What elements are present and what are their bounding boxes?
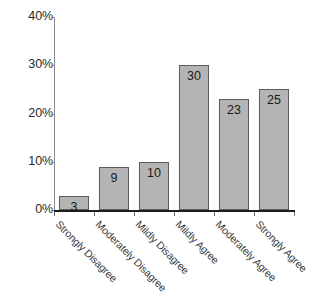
bar-5[interactable]: 25: [259, 89, 289, 210]
x-tick-mark-5: [254, 212, 255, 216]
y-tick-label-3: 30%: [28, 57, 53, 71]
bar-value-3: 30: [180, 69, 208, 83]
x-tick-mark-2: [134, 212, 135, 216]
x-tick-mark-4: [214, 212, 215, 216]
y-tick-label-1: 10%: [28, 154, 53, 168]
bar-chart: 0% 10% 20% 30% 40% 3 9 10 30 23 25: [0, 0, 318, 302]
bar-4[interactable]: 23: [219, 99, 249, 210]
bar-value-4: 23: [220, 103, 248, 117]
y-tick-label-4: 40%: [28, 9, 53, 23]
y-tick-label-0: 0%: [35, 202, 53, 216]
bar-2[interactable]: 10: [139, 162, 169, 210]
bar-1[interactable]: 9: [99, 167, 129, 210]
bar-value-1: 9: [100, 171, 128, 185]
plot-area: 3 9 10 30 23 25: [54, 17, 295, 210]
bar-value-5: 25: [260, 93, 288, 107]
bar-3[interactable]: 30: [179, 65, 209, 210]
x-tick-mark-3: [174, 212, 175, 216]
x-tick-mark-6: [294, 212, 295, 216]
x-tick-mark-0: [54, 212, 55, 216]
bar-value-2: 10: [140, 166, 168, 180]
x-tick-mark-1: [94, 212, 95, 216]
category-label-1: Moderately Disagree: [94, 218, 170, 294]
y-tick-label-2: 20%: [28, 106, 53, 120]
bar-0[interactable]: 3: [59, 196, 89, 210]
